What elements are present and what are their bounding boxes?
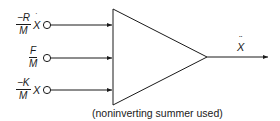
input-terminal-1 [43, 21, 50, 28]
input-2-denominator: M [29, 58, 37, 69]
output-variable-wrap: X ¨ [237, 42, 244, 53]
input-2-coefficient: F M [29, 46, 37, 69]
input-3-coefficient: −K M [16, 78, 31, 101]
input-3-numerator: −K [16, 78, 31, 90]
input-1-dot-mark: ˙ [35, 13, 38, 22]
input-3-denominator: M [19, 90, 27, 101]
summer-diagram [0, 0, 280, 121]
input-1-variable-wrap: X ˙ [33, 20, 40, 31]
input-1-coefficient: −R M [16, 13, 31, 36]
input-3-variable: X [33, 84, 40, 96]
output-double-dot-mark: ¨ [239, 35, 242, 44]
input-1-numerator: −R [16, 13, 31, 25]
input-terminal-2 [43, 54, 50, 61]
input-terminal-3 [43, 86, 50, 93]
input-3-variable-wrap: X [33, 85, 40, 96]
input-1-denominator: M [19, 25, 27, 36]
diagram-caption: (noninverting summer used) [92, 107, 223, 119]
input-2-numerator: F [29, 46, 37, 58]
summer-triangle [113, 9, 207, 105]
